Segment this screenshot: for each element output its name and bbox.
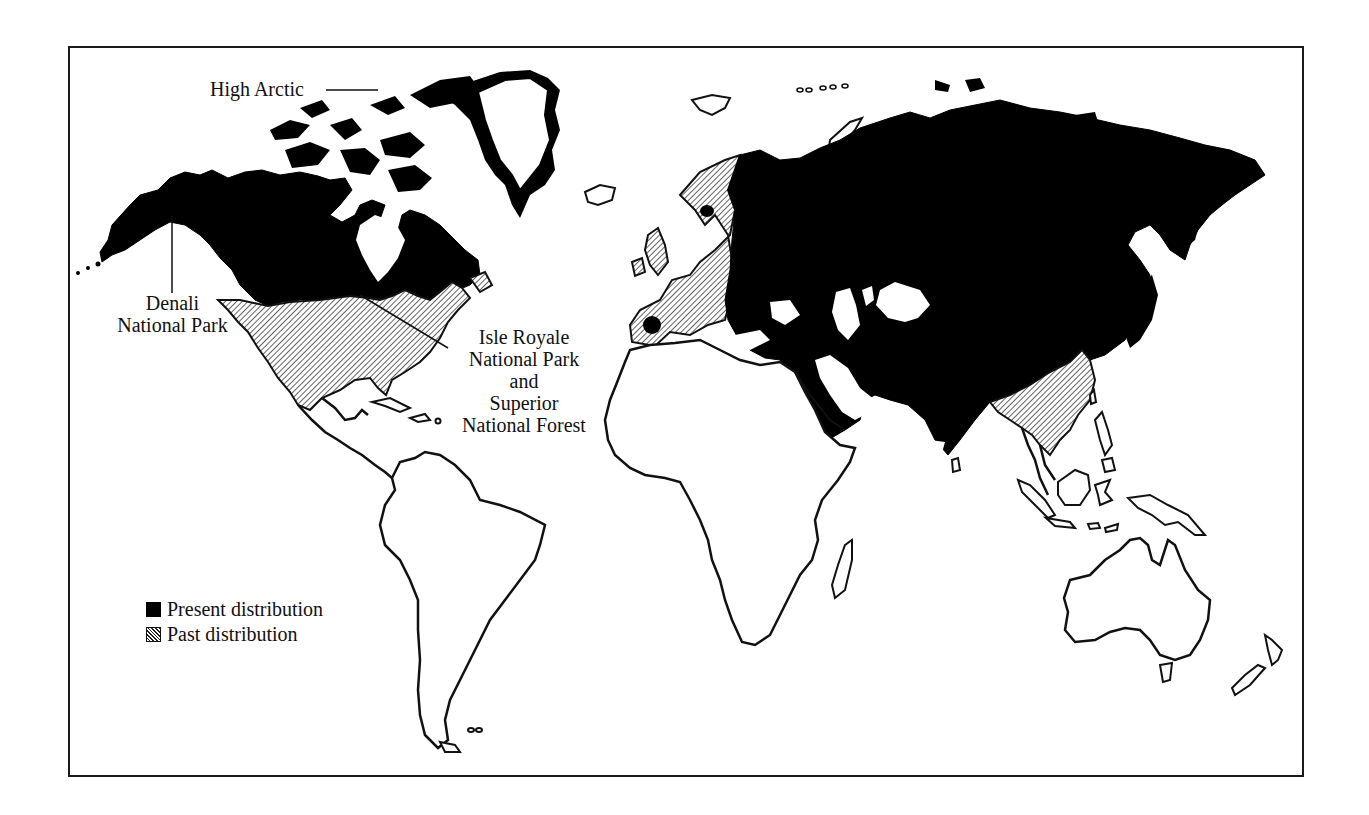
australia-outline bbox=[1064, 538, 1210, 660]
india-tip-cutout bbox=[930, 440, 945, 460]
map-legend: Present distribution Past distribution bbox=[146, 597, 323, 647]
world-map bbox=[0, 0, 1369, 815]
british-isles-past-region bbox=[632, 228, 668, 276]
north-america-present-region bbox=[100, 170, 480, 306]
falkland-islands bbox=[468, 728, 482, 732]
legend-present-label: Present distribution bbox=[167, 598, 323, 621]
label-denali-line2: National Park bbox=[90, 314, 255, 336]
new-zealand-outline bbox=[1232, 635, 1282, 695]
label-isle-royale-superior: Isle Royale National Park and Superior N… bbox=[448, 326, 600, 436]
sri-lanka-outline bbox=[952, 458, 960, 472]
hatched-swatch-icon bbox=[146, 627, 161, 642]
south-america-outline bbox=[380, 452, 545, 748]
central-america-outline bbox=[298, 398, 392, 478]
svalbard-outline bbox=[692, 95, 730, 115]
sulawesi-outline bbox=[1095, 480, 1112, 505]
legend-item-past: Past distribution bbox=[146, 622, 323, 647]
philippines-outline bbox=[1095, 412, 1115, 472]
label-isle-line5: National Forest bbox=[448, 414, 600, 436]
lesser-sunda-outline bbox=[1088, 523, 1118, 532]
label-high-arctic: High Arctic bbox=[210, 78, 304, 100]
tierra-del-fuego bbox=[440, 742, 460, 752]
north-america-past-region bbox=[218, 282, 470, 410]
new-guinea-outline bbox=[1128, 495, 1205, 535]
java-outline bbox=[1046, 518, 1075, 528]
borneo-outline bbox=[1058, 470, 1090, 505]
label-isle-line2: National Park bbox=[448, 348, 600, 370]
scandinavia-present-spot bbox=[700, 205, 714, 217]
sumatra-outline bbox=[1018, 480, 1055, 518]
caribbean-island-dot bbox=[436, 419, 441, 424]
iceland-outline bbox=[585, 185, 615, 205]
label-denali-national-park: Denali National Park bbox=[90, 292, 255, 336]
solid-black-swatch-icon bbox=[146, 602, 161, 617]
iberia-present-spot bbox=[643, 316, 661, 334]
legend-past-label: Past distribution bbox=[167, 623, 298, 646]
aleutian-islands bbox=[76, 262, 101, 276]
madagascar-outline bbox=[832, 540, 852, 598]
franz-josef-dots bbox=[797, 84, 848, 92]
label-isle-line1: Isle Royale bbox=[448, 326, 600, 348]
label-isle-line3: and bbox=[448, 370, 600, 392]
legend-item-present: Present distribution bbox=[146, 597, 323, 622]
tasmania-outline bbox=[1160, 663, 1172, 682]
caribbean-islands bbox=[372, 398, 430, 422]
label-isle-line4: Superior bbox=[448, 392, 600, 414]
label-denali-line1: Denali bbox=[90, 292, 255, 314]
